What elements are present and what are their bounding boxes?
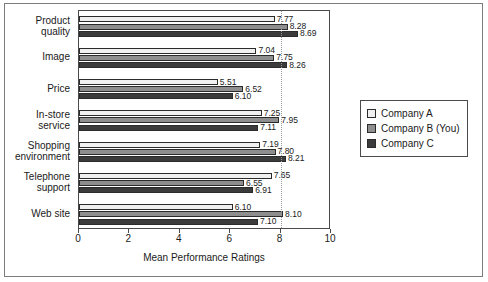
- bar: [79, 86, 243, 92]
- legend-label: Company A: [381, 108, 433, 119]
- x-tick-label: 10: [324, 233, 335, 245]
- bar: [79, 16, 275, 22]
- bar-value-label: 7.95: [281, 116, 298, 124]
- bar-value-label: 5.51: [220, 78, 237, 86]
- x-tick-label: 8: [277, 233, 283, 245]
- x-tick-label: 4: [176, 233, 182, 245]
- bar: [79, 156, 286, 162]
- bar: [79, 31, 298, 37]
- bar: [79, 24, 288, 30]
- bar-group: 7.197.808.21: [79, 136, 329, 167]
- x-axis-title: Mean Performance Ratings: [78, 252, 330, 263]
- bar: [79, 55, 274, 61]
- bar-group: 7.257.957.11: [79, 105, 329, 136]
- legend-label: Company C: [381, 138, 434, 149]
- category-label-line: Web site: [31, 208, 70, 219]
- category-label-line: Shopping: [15, 140, 70, 151]
- bar: [79, 149, 276, 155]
- category-label-line: Product: [36, 15, 70, 26]
- legend-item[interactable]: Company B (You): [367, 121, 460, 136]
- bar: [79, 117, 279, 123]
- category-label: Web site: [31, 208, 70, 219]
- legend-item[interactable]: Company C: [367, 136, 460, 151]
- bar: [79, 187, 253, 193]
- bar: [79, 219, 258, 225]
- bar-group: 7.778.288.69: [79, 11, 329, 42]
- category-label-line: quality: [36, 26, 70, 37]
- category-label: Shoppingenvironment: [15, 140, 70, 162]
- x-tick-label: 0: [75, 233, 81, 245]
- category-label-line: Telephone: [24, 171, 70, 182]
- category-label-line: Image: [42, 51, 70, 62]
- legend-label: Company B (You): [381, 123, 460, 134]
- bar-value-label: 8.10: [285, 210, 302, 218]
- category-label-line: service: [36, 120, 70, 131]
- bar-group: 7.656.556.91: [79, 167, 329, 198]
- category-label-line: environment: [15, 151, 70, 162]
- bar: [79, 125, 258, 131]
- bar-group: 5.516.526.10: [79, 74, 329, 105]
- bar: [79, 142, 260, 148]
- bar: [79, 110, 262, 116]
- bar-value-label: 8.21: [288, 154, 305, 162]
- category-label-line: In-store: [36, 109, 70, 120]
- legend-swatch-icon: [367, 109, 376, 118]
- bar: [79, 48, 256, 54]
- category-label-line: support: [24, 182, 70, 193]
- plot-area: 7.778.288.697.047.758.265.516.526.107.25…: [78, 10, 330, 229]
- bar-value-label: 7.04: [258, 46, 275, 54]
- bar: [79, 204, 233, 210]
- x-axis-tick-labels: 0246810: [78, 233, 330, 247]
- bar: [79, 180, 244, 186]
- legend-swatch-icon: [367, 139, 376, 148]
- bar-value-label: 8.69: [300, 29, 317, 37]
- bar: [79, 79, 218, 85]
- legend-swatch-icon: [367, 124, 376, 133]
- bar: [79, 62, 287, 68]
- bar-value-label: 7.11: [260, 123, 276, 131]
- bar-value-label: 7.10: [260, 217, 277, 225]
- bar-group: 6.108.107.10: [79, 199, 329, 230]
- category-label: Price: [47, 83, 70, 94]
- bar: [79, 173, 272, 179]
- bar: [79, 93, 233, 99]
- chart-figure: ProductqualityImagePriceIn-storeserviceS…: [0, 0, 488, 282]
- category-label: Image: [42, 51, 70, 62]
- bar-value-label: 7.65: [274, 171, 291, 179]
- bar-value-label: 6.91: [255, 186, 272, 194]
- category-label: Productquality: [36, 15, 70, 37]
- gridline-x-8: [281, 11, 282, 228]
- bar-groups: 7.778.288.697.047.758.265.516.526.107.25…: [79, 11, 329, 228]
- category-label: Telephonesupport: [24, 171, 70, 193]
- y-axis-category-labels: ProductqualityImagePriceIn-storeserviceS…: [0, 10, 74, 229]
- bar-value-label: 6.10: [235, 203, 252, 211]
- bar-value-label: 7.19: [262, 140, 279, 148]
- bar-value-label: 8.26: [289, 61, 306, 69]
- category-label: In-storeservice: [36, 109, 70, 131]
- legend-item[interactable]: Company A: [367, 106, 460, 121]
- bar-value-label: 7.25: [264, 109, 281, 117]
- x-tick-label: 2: [126, 233, 132, 245]
- bar: [79, 211, 283, 217]
- category-label-line: Price: [47, 83, 70, 94]
- bar-group: 7.047.758.26: [79, 42, 329, 73]
- bar-value-label: 6.10: [235, 92, 252, 100]
- legend: Company ACompany B (You)Company C: [360, 100, 468, 157]
- x-tick-label: 6: [226, 233, 232, 245]
